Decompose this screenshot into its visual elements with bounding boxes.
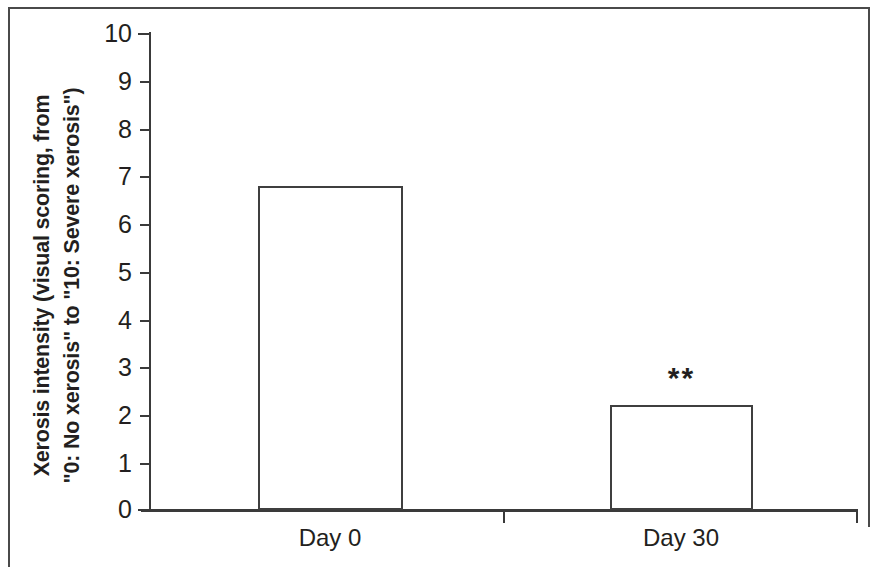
y-tick-2 — [140, 415, 151, 417]
y-tick-6 — [140, 224, 151, 226]
y-tick-label-1: 1 — [88, 451, 132, 476]
y-axis-title-line-2: "0: No xerosis" to "10: Severe xerosis") — [57, 87, 87, 483]
y-tick-4 — [140, 320, 151, 322]
y-tick-7 — [140, 176, 151, 178]
y-tick-3 — [140, 367, 151, 369]
x-axis-end-tick — [856, 509, 858, 523]
chart-figure: Xerosis intensity (visual scoring, from … — [0, 0, 879, 571]
y-tick-10 — [138, 33, 151, 35]
significance-marker: ** — [610, 363, 753, 393]
y-tick-0 — [138, 509, 151, 511]
bar-day-30 — [610, 405, 753, 510]
y-tick-9 — [140, 81, 151, 83]
y-tick-1 — [140, 463, 151, 465]
y-tick-label-9: 9 — [88, 69, 132, 94]
y-tick-label-4: 4 — [88, 308, 132, 333]
x-axis-category-separator-tick — [503, 509, 505, 523]
y-tick-label-10: 10 — [88, 21, 132, 46]
y-tick-label-2: 2 — [88, 403, 132, 428]
bar-day-0 — [258, 186, 403, 510]
y-tick-5 — [140, 272, 151, 274]
figure-border-right-edge — [868, 7, 870, 527]
y-tick-label-3: 3 — [88, 355, 132, 380]
x-axis-category-label-day-30: Day 30 — [611, 524, 751, 552]
y-tick-label-5: 5 — [88, 260, 132, 285]
y-tick-8 — [140, 129, 151, 131]
x-axis-category-label-day-0: Day 0 — [260, 524, 400, 552]
y-axis-title-line-1: Xerosis intensity (visual scoring, from — [27, 95, 57, 477]
y-tick-label-8: 8 — [88, 117, 132, 142]
y-tick-label-7: 7 — [88, 164, 132, 189]
y-tick-label-0: 0 — [88, 497, 132, 522]
y-tick-label-6: 6 — [88, 212, 132, 237]
